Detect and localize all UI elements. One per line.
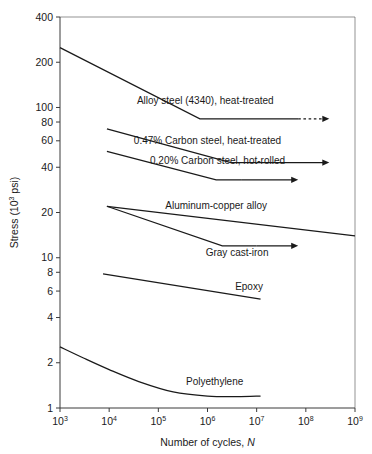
series-line-4 xyxy=(107,206,257,246)
series-label-1: 0.47% Carbon steel, heat-treated xyxy=(134,135,281,146)
y-tick-label: 80 xyxy=(41,116,53,128)
series-label-6: Polyethylene xyxy=(186,376,244,387)
y-tick-label: 100 xyxy=(35,101,53,113)
x-tick-label: 105 xyxy=(151,415,167,428)
series-label-3: Aluminum-copper alloy xyxy=(165,200,267,211)
axis-box-top-right xyxy=(60,17,355,408)
series-line-6 xyxy=(60,347,261,397)
y-tick-label: 1 xyxy=(47,402,53,414)
series-arrow-head-2 xyxy=(291,177,298,183)
series-arrow-head-0 xyxy=(322,116,329,122)
y-tick-label: 400 xyxy=(35,11,53,23)
x-tick-label: 108 xyxy=(298,415,314,428)
chart-canvas: 4002001008060402010864211031041051061071… xyxy=(0,0,372,454)
chart-axes xyxy=(60,17,355,408)
y-axis-title: Stress (103 psi) xyxy=(8,177,21,249)
x-tick-label: 103 xyxy=(52,415,68,428)
y-tick-label: 10 xyxy=(41,251,53,263)
y-tick-label: 200 xyxy=(35,56,53,68)
y-tick-label: 40 xyxy=(41,161,53,173)
series-label-5: Epoxy xyxy=(235,281,263,292)
y-tick-label: 2 xyxy=(47,356,53,368)
x-axis-title: Number of cycles, N xyxy=(160,436,255,448)
fatigue-s-n-chart: 4002001008060402010864211031041051061071… xyxy=(0,0,372,454)
series-arrow-head-4 xyxy=(291,243,298,249)
axis-spines xyxy=(60,17,355,408)
series-line-0 xyxy=(60,48,298,119)
x-tick-label: 104 xyxy=(101,415,117,428)
y-tick-label: 8 xyxy=(47,266,53,278)
series-arrow-head-1 xyxy=(322,159,329,165)
y-tick-label: 6 xyxy=(47,285,53,297)
series-label-0: Alloy steel (4340), heat-treated xyxy=(137,95,274,106)
series-label-2: 0.20% Carbon steel, hot-rolled xyxy=(150,155,285,166)
x-tick-label: 107 xyxy=(249,415,265,428)
y-tick-label: 20 xyxy=(41,206,53,218)
series-label-4: Gray cast-iron xyxy=(206,247,269,258)
chart-text-labels: 4002001008060402010864211031041051061071… xyxy=(8,11,363,448)
y-tick-label: 60 xyxy=(41,134,53,146)
x-tick-label: 109 xyxy=(347,415,363,428)
chart-tick-marks xyxy=(56,17,355,412)
x-tick-label: 106 xyxy=(200,415,216,428)
y-tick-label: 4 xyxy=(47,311,53,323)
